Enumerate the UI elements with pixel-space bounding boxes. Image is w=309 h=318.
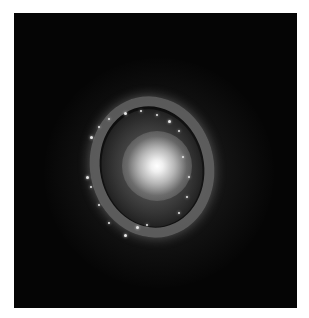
star-cluster [156,114,158,116]
star-cluster [90,136,93,139]
galaxy-image [14,13,297,308]
star-cluster [98,126,100,128]
star-cluster [178,212,180,214]
star-cluster [178,130,180,132]
star-cluster [136,226,139,229]
star-cluster [168,120,171,123]
star-cluster [146,224,148,226]
star-cluster [140,110,142,112]
star-cluster [86,176,89,179]
star-cluster [124,234,127,237]
star-cluster [90,186,92,188]
star-cluster [124,112,127,115]
star-cluster [108,222,110,224]
star-cluster [188,176,190,178]
star-cluster [108,118,110,120]
star-cluster [186,196,188,198]
galaxy-nucleus [122,131,192,201]
star-cluster [182,156,184,158]
star-cluster [98,204,100,206]
